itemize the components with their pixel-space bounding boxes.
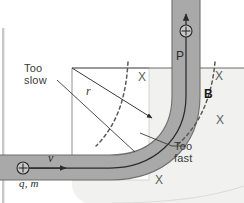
field-into-page-mark-3: X (216, 113, 224, 127)
velocity-label: v (48, 152, 54, 165)
physics-diagram-figure: Too slow Too fast r v q, m P B X X X X (0, 0, 244, 203)
too-fast-label: Too fast (174, 140, 193, 165)
field-into-page-mark-1: X (138, 70, 146, 84)
radius-label: r (86, 85, 91, 98)
field-into-page-mark-4: X (155, 173, 163, 187)
diagram-canvas (0, 0, 244, 203)
too-slow-label: Too slow (24, 62, 47, 87)
field-into-page-mark-2: X (215, 69, 223, 83)
magnetic-field-label: B (204, 88, 213, 101)
charge-mass-label: q, m (19, 177, 39, 189)
point-p-label: P (176, 50, 184, 63)
